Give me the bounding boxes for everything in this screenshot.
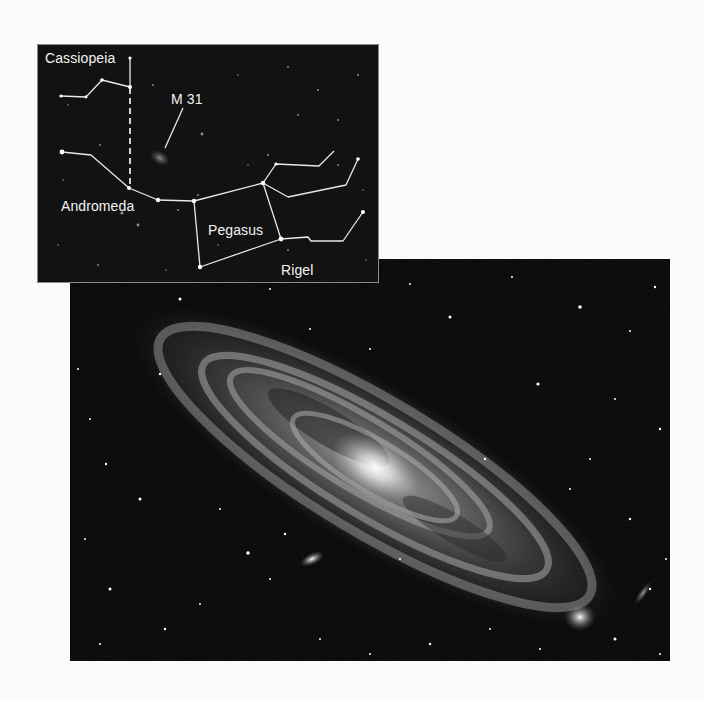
label-andromeda: Andromeda — [61, 199, 134, 213]
galaxy-image — [70, 259, 670, 661]
constellation-lines — [38, 45, 379, 283]
label-pegasus: Pegasus — [208, 223, 263, 237]
pegasus-lower-branch — [281, 212, 363, 241]
m31-pointer-line — [165, 108, 183, 148]
label-m31: M 31 — [171, 92, 203, 106]
label-cassiopeia: Cassiopeia — [45, 51, 115, 65]
m31-blob — [147, 146, 173, 169]
label-rigel: Rigel — [281, 263, 313, 277]
pegasus-upper-branch — [263, 151, 334, 183]
andromeda-lines — [62, 152, 194, 201]
constellation-inset-chart: Cassiopeia M 31 Andromeda Pegasus Rigel — [37, 44, 379, 283]
andromeda-galaxy-photo — [70, 259, 670, 661]
